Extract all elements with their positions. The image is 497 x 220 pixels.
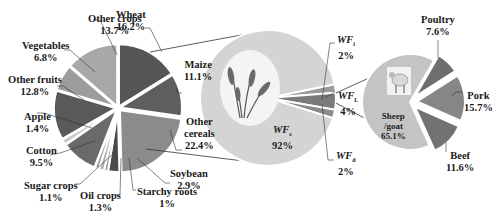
label-value: 16.2% bbox=[116, 21, 146, 33]
label-subscript: c bbox=[289, 131, 292, 137]
label-name: Wheat bbox=[116, 9, 146, 21]
label-apple: Apple 1.4% bbox=[24, 111, 51, 135]
label-value: 2% bbox=[336, 166, 356, 178]
label-vegetables: Vegetables 6.8% bbox=[22, 40, 69, 64]
label-subscript: d bbox=[352, 157, 355, 163]
label-beef: Beef 11.6% bbox=[446, 150, 474, 174]
label-value: 12.8% bbox=[8, 86, 62, 98]
label-wf-l: WFL 4% bbox=[338, 90, 358, 118]
label-name: Poultry bbox=[421, 14, 455, 26]
label-value: 1.1% bbox=[24, 192, 78, 204]
label-value: 15.7% bbox=[464, 102, 493, 114]
label-name: Oil crops bbox=[80, 190, 121, 202]
label-name: Pork bbox=[464, 90, 493, 102]
label-sheep: Sheep /goat 65.1% bbox=[381, 111, 406, 141]
label-subscript: i bbox=[353, 41, 355, 47]
label-name: Sheep bbox=[381, 111, 406, 121]
label-value: 7.6% bbox=[421, 26, 455, 38]
label-wf-d: WFd 2% bbox=[336, 150, 356, 178]
label-value: 9.5% bbox=[26, 157, 57, 169]
label-other-fruits: Other fruits 12.8% bbox=[8, 74, 62, 98]
label-name: Other bbox=[184, 116, 215, 128]
label-wf-i: WFi 2% bbox=[337, 34, 355, 62]
label-sugar-crops: Sugar crops 1.1% bbox=[24, 180, 78, 204]
livestock-pie bbox=[362, 54, 465, 151]
label-value: 11.1% bbox=[184, 71, 212, 83]
label-name: Apple bbox=[24, 111, 51, 123]
label-soybean: Soybean 2.9% bbox=[170, 168, 208, 192]
label-name: /goat bbox=[381, 121, 406, 131]
wheat-icon bbox=[220, 50, 280, 126]
label-other-cereals: Other cereals 22.4% bbox=[184, 116, 215, 152]
label-poultry: Poultry 7.6% bbox=[421, 14, 455, 38]
label-name: Beef bbox=[446, 150, 474, 162]
label-maize: Maize 11.1% bbox=[184, 59, 212, 83]
label-value: 6.8% bbox=[22, 52, 69, 64]
label-value: 11.6% bbox=[446, 162, 474, 174]
label-name: Maize bbox=[184, 59, 212, 71]
label-value: 22.4% bbox=[184, 140, 215, 152]
label-value: 1.4% bbox=[24, 123, 51, 135]
label-name: Cotton bbox=[26, 145, 57, 157]
label-pork: Pork 15.7% bbox=[464, 90, 493, 114]
label-name: WF bbox=[337, 34, 353, 45]
label-value: 1% bbox=[137, 198, 197, 210]
pie-slice-other-cereals bbox=[120, 110, 181, 172]
label-value: 2.9% bbox=[170, 180, 208, 192]
label-value: 92% bbox=[272, 140, 293, 152]
label-name: Soybean bbox=[170, 168, 208, 180]
label-name: WF bbox=[273, 124, 289, 135]
crop-pie bbox=[54, 44, 182, 172]
label-oil-crops: Oil crops 1.3% bbox=[80, 190, 121, 214]
label-value: 2% bbox=[337, 50, 355, 62]
label-wheat: Wheat 16.2% bbox=[116, 9, 146, 33]
label-name: Sugar crops bbox=[24, 180, 78, 192]
label-cotton: Cotton 9.5% bbox=[26, 145, 57, 169]
label-subscript: L bbox=[354, 97, 358, 103]
label-name: Vegetables bbox=[22, 40, 69, 52]
label-value: 4% bbox=[338, 106, 358, 118]
label-wf-c: WFc 92% bbox=[272, 124, 293, 152]
label-value: 1.3% bbox=[80, 202, 121, 214]
sheep-icon bbox=[387, 67, 411, 95]
label-name: WF bbox=[338, 90, 354, 101]
label-name: WF bbox=[336, 150, 352, 161]
label-name: Other fruits bbox=[8, 74, 62, 86]
label-value: 65.1% bbox=[381, 131, 406, 141]
label-name: cereals bbox=[184, 128, 215, 140]
